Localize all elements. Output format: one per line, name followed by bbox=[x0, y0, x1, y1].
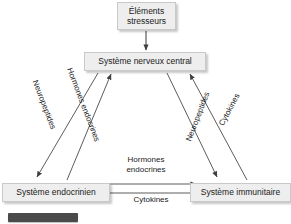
edge-label-cytokines-middle: Cytokines bbox=[113, 195, 189, 205]
node-endocrine-system[interactable]: Système endocrinien bbox=[2, 183, 110, 202]
node-central-nervous-system[interactable]: Système nerveux central bbox=[84, 52, 206, 71]
hormones-line-1: Hormones bbox=[128, 155, 165, 164]
footer-bar bbox=[8, 213, 78, 222]
node-stressors[interactable]: Éléments stresseurs bbox=[117, 2, 176, 30]
edge-label-hormones-endocrines-middle: Hormones endocrines bbox=[108, 155, 184, 174]
node-immune-system[interactable]: Système immunitaire bbox=[190, 183, 291, 202]
hormones-line-2: endocrines bbox=[126, 165, 165, 174]
